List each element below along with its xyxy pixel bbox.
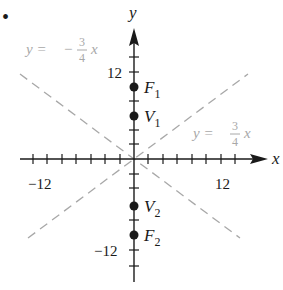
x-tick-label-pos: 12 — [215, 176, 230, 192]
x-tick-label-neg: −12 — [28, 176, 51, 192]
svg-text:y =: y = — [24, 41, 47, 57]
asymptote-label-negative: y = − 3 4 x — [24, 35, 98, 65]
vertex-2-label: V2 — [144, 197, 160, 220]
svg-text:3: 3 — [232, 119, 238, 133]
asymptote-label-positive: y = 3 4 x — [191, 119, 251, 149]
vertex-2-dot — [130, 202, 139, 211]
focus-2-label: F2 — [143, 226, 160, 249]
y-tick-label-neg: −12 — [94, 243, 117, 259]
y-axis: y 12 −12 — [94, 3, 139, 282]
svg-text:x: x — [90, 41, 98, 57]
x-axis-label: x — [271, 149, 280, 168]
asymptote-positive-slope — [28, 74, 248, 238]
svg-text:−: − — [64, 41, 72, 57]
svg-text:y =: y = — [191, 125, 214, 141]
asymptote-negative-slope — [20, 74, 240, 238]
focus-1-dot — [130, 83, 139, 92]
svg-text:4: 4 — [232, 135, 238, 149]
svg-text:x: x — [243, 125, 251, 141]
y-tick-label-pos: 12 — [107, 65, 122, 81]
vertex-1-label: V1 — [144, 107, 160, 130]
svg-text:4: 4 — [79, 51, 85, 65]
focus-2-dot — [130, 231, 139, 240]
y-axis-label: y — [127, 3, 137, 22]
svg-text:3: 3 — [79, 35, 85, 49]
hyperbola-figure: • — [0, 0, 283, 290]
bullet-marker: • — [2, 6, 9, 28]
x-axis: x −12 12 — [20, 149, 280, 192]
vertex-1-dot — [130, 112, 139, 121]
focus-1-label: F1 — [143, 78, 160, 101]
